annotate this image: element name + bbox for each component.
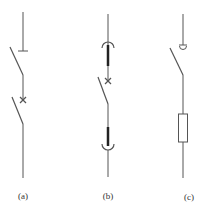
panel-a-symbol <box>10 12 28 178</box>
panel-b-symbol <box>98 14 114 177</box>
panel-c-label: (c) <box>184 192 194 202</box>
diagram-canvas <box>0 0 203 211</box>
panel-b-label: (b) <box>103 191 114 201</box>
switch-blade <box>170 48 183 75</box>
fuse-icon <box>179 114 188 142</box>
switch-blade <box>98 77 108 104</box>
panel-c-symbol <box>170 14 188 178</box>
loop-icon <box>180 46 187 50</box>
panel-a-label: (a) <box>18 191 28 201</box>
